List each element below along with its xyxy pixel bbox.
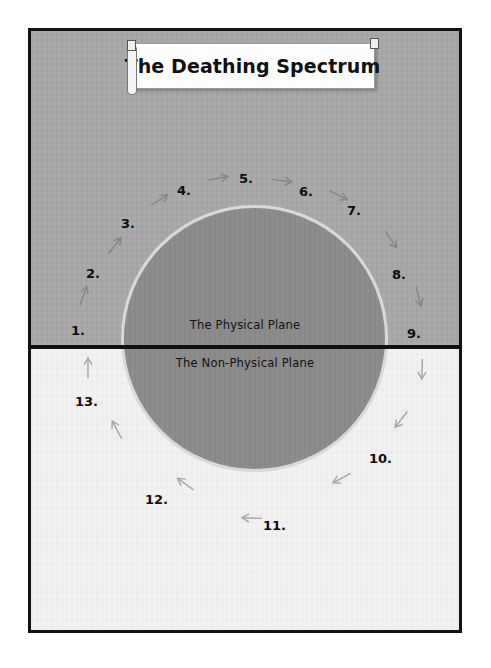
figure-title: The Deathing Spectrum xyxy=(125,55,381,77)
non-physical-plane-label: The Non-Physical Plane xyxy=(31,356,459,370)
waypoint-11: 11. xyxy=(263,518,286,533)
textbox-handle-top-left[interactable] xyxy=(127,40,136,51)
waypoint-1: 1. xyxy=(71,323,85,338)
arrow-12-to-13-icon xyxy=(237,513,263,524)
waypoint-6: 6. xyxy=(299,184,313,199)
waypoint-10: 10. xyxy=(369,451,392,466)
spectrum-circle xyxy=(121,205,388,472)
waypoint-7: 7. xyxy=(347,203,361,218)
title-text-box[interactable]: The Deathing Spectrum xyxy=(130,43,375,89)
deathing-spectrum-figure: The Physical Plane The Non-Physical Plan… xyxy=(28,28,462,633)
waypoint-8: 8. xyxy=(392,267,406,282)
physical-plane-label: The Physical Plane xyxy=(31,318,459,332)
waypoint-12: 12. xyxy=(145,492,168,507)
waypoint-3: 3. xyxy=(121,216,135,231)
arrow-13-to-1-icon xyxy=(83,353,93,379)
waypoint-13: 13. xyxy=(75,394,98,409)
waypoint-5: 5. xyxy=(239,171,253,186)
textbox-left-grab-bar[interactable] xyxy=(127,45,137,95)
plane-divider-line xyxy=(31,345,459,349)
waypoint-9: 9. xyxy=(407,326,421,341)
waypoint-2: 2. xyxy=(86,266,100,281)
textbox-handle-top-right[interactable] xyxy=(370,38,379,49)
arrow-9-to-10-icon xyxy=(417,358,428,384)
waypoint-4: 4. xyxy=(177,183,191,198)
